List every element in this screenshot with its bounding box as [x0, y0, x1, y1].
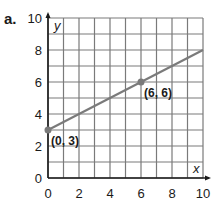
x-tick-label: 4: [106, 186, 113, 201]
y-tick-labels: 0246810: [28, 11, 42, 186]
x-tick-label: 0: [44, 186, 51, 201]
x-tick-label: 10: [196, 186, 210, 201]
x-axis-arrow-icon: [205, 176, 211, 181]
data-point-label: (0, 3): [51, 134, 79, 148]
y-axis-label: y: [53, 18, 62, 33]
y-axis-arrow-icon: [46, 12, 51, 18]
problem-label: a.: [4, 10, 17, 27]
y-tick-label: 0: [35, 171, 42, 186]
x-tick-labels: 0246810: [44, 186, 210, 201]
coordinate-graph: a. 0246810 0246810 (0, 3)(6, 6) x y: [0, 0, 221, 207]
y-tick-label: 10: [28, 11, 42, 26]
data-point: [138, 79, 145, 86]
axes: [46, 12, 212, 181]
y-tick-label: 8: [35, 43, 42, 58]
x-tick-label: 6: [137, 186, 144, 201]
data-point-label: (6, 6): [144, 86, 172, 100]
x-tick-label: 2: [75, 186, 82, 201]
y-tick-label: 2: [35, 139, 42, 154]
y-tick-label: 4: [35, 107, 42, 122]
grid-lines: [48, 18, 203, 178]
data-point: [45, 127, 52, 134]
x-tick-label: 8: [168, 186, 175, 201]
x-axis-label: x: [192, 161, 200, 176]
y-tick-label: 6: [35, 75, 42, 90]
